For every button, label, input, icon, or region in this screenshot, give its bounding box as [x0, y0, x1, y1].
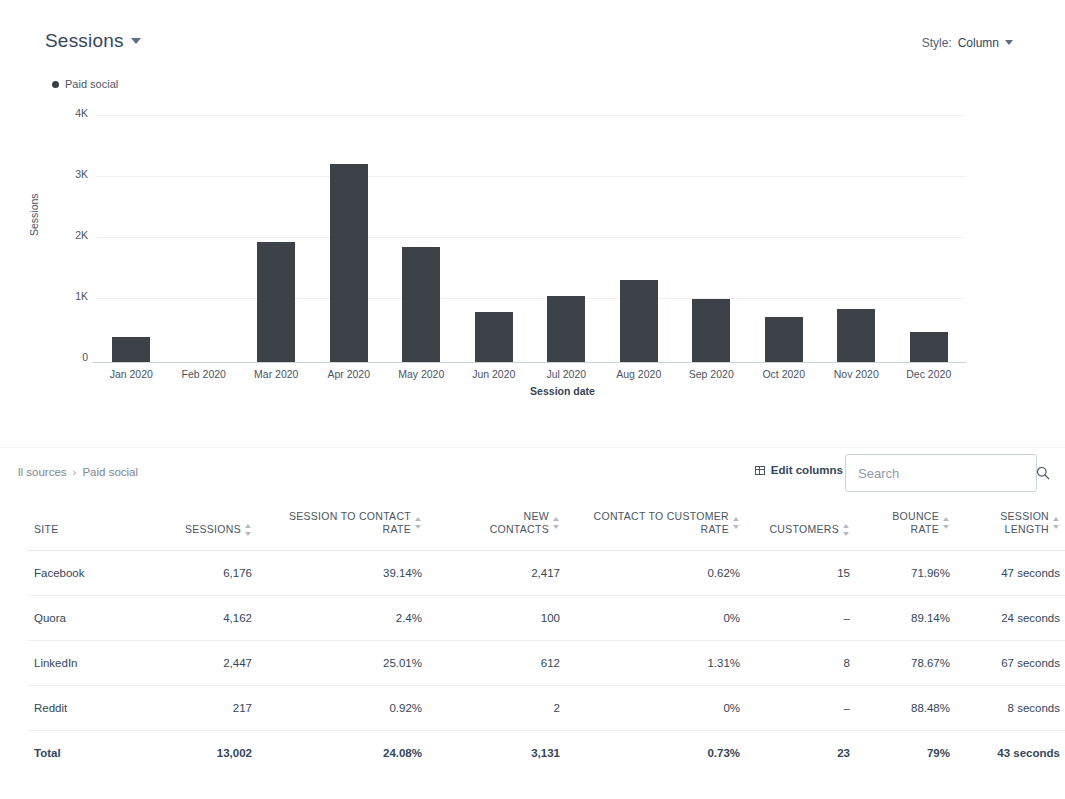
search-box[interactable] — [845, 454, 1037, 492]
cell-new-contacts: 612 — [428, 641, 566, 686]
column-header-new-contacts[interactable]: NEWCONTACTS — [428, 504, 566, 551]
column-header-session-length[interactable]: SESSIONLENGTH — [956, 504, 1065, 551]
style-dropdown[interactable]: Style:Column — [922, 36, 1013, 50]
column-header-sessions[interactable]: SESSIONS — [146, 504, 258, 551]
x-tick-label: Dec 2020 — [906, 368, 951, 380]
table-toolbar: ll sources›Paid social Edit columns — [0, 448, 1065, 504]
style-label: Style: — [922, 36, 952, 50]
style-value: Column — [958, 36, 999, 50]
cell-session-length: 24 seconds — [956, 596, 1065, 641]
chart-legend[interactable]: Paid social — [52, 78, 118, 90]
bar-slot — [893, 110, 966, 362]
y-tick-3: 3K — [75, 168, 88, 180]
x-axis-title: Session date — [0, 385, 1065, 397]
sort-toggle-icon[interactable] — [843, 523, 850, 537]
table-row[interactable]: LinkedIn2,44725.01%6121.31%878.67%67 sec… — [28, 641, 1065, 686]
column-header-customers[interactable]: CUSTOMERS — [746, 504, 856, 551]
cell-site[interactable]: Reddit — [28, 686, 146, 731]
sort-toggle-icon[interactable] — [415, 516, 422, 530]
x-tick-label: Jun 2020 — [472, 368, 515, 380]
y-tick-2: 2K — [75, 229, 88, 241]
cell-bounce-rate: 71.96% — [856, 551, 956, 596]
cell-site: Total — [28, 731, 146, 776]
column-header-label: SESSION TO CONTACTRATE — [289, 510, 422, 536]
chart-bar[interactable] — [620, 280, 658, 362]
sort-toggle-icon[interactable] — [733, 516, 740, 530]
chart-bar[interactable] — [475, 312, 513, 362]
cell-bounce-rate: 88.48% — [856, 686, 956, 731]
chart-bar[interactable] — [547, 296, 585, 362]
page-title: Sessions — [45, 30, 124, 51]
sort-toggle-icon[interactable] — [943, 516, 950, 530]
cell-bounce-rate: 78.67% — [856, 641, 956, 686]
bar-slot — [240, 110, 313, 362]
sort-toggle-icon[interactable] — [1053, 516, 1060, 530]
chart-bar[interactable] — [330, 164, 368, 362]
bar-slot — [168, 110, 241, 362]
cell-sessions: 4,162 — [146, 596, 258, 641]
column-header-label: SESSIONS — [185, 523, 252, 536]
cell-new-contacts: 2,417 — [428, 551, 566, 596]
chart-bar[interactable] — [257, 242, 295, 362]
sources-table-card: ll sources›Paid social Edit columns SITE… — [0, 447, 1065, 799]
edit-columns-button[interactable]: Edit columns — [755, 464, 843, 476]
chart-bar[interactable] — [112, 337, 150, 362]
table-row[interactable]: Facebook6,17639.14%2,4170.62%1571.96%47 … — [28, 551, 1065, 596]
breadcrumb[interactable]: ll sources›Paid social — [18, 466, 138, 478]
breadcrumb-separator-icon: › — [73, 466, 77, 478]
cell-site[interactable]: LinkedIn — [28, 641, 146, 686]
chart-bar[interactable] — [837, 309, 875, 362]
x-tick-label: Aug 2020 — [616, 368, 661, 380]
chart-title-dropdown[interactable]: Sessions — [45, 30, 141, 52]
column-header-session-to-contact-rate[interactable]: SESSION TO CONTACTRATE — [258, 504, 428, 551]
sources-table: SITESESSIONSSESSION TO CONTACTRATENEWCON… — [28, 504, 1065, 775]
cell-session-to-contact-rate: 39.14% — [258, 551, 428, 596]
sort-toggle-icon[interactable] — [553, 516, 560, 530]
table-row[interactable]: Quora4,1622.4%1000%–89.14%24 seconds — [28, 596, 1065, 641]
sort-toggle-icon[interactable] — [245, 523, 252, 537]
chevron-down-icon — [1005, 40, 1013, 45]
table-row[interactable]: Reddit2170.92%20%–88.48%8 seconds — [28, 686, 1065, 731]
column-header-site: SITE — [28, 504, 146, 551]
chart-bar[interactable] — [402, 247, 440, 362]
y-axis-title: Sessions — [28, 193, 40, 236]
bar-slot — [385, 110, 458, 362]
breadcrumb-root[interactable]: ll sources — [18, 466, 67, 478]
x-tick-label: Sep 2020 — [689, 368, 734, 380]
x-tick-label: Jul 2020 — [546, 368, 586, 380]
x-tick-label: May 2020 — [398, 368, 444, 380]
cell-sessions: 6,176 — [146, 551, 258, 596]
cell-customers: 8 — [746, 641, 856, 686]
table-header-row: SITESESSIONSSESSION TO CONTACTRATENEWCON… — [28, 504, 1065, 551]
y-tick-4: 4K — [75, 107, 88, 119]
chart-bar[interactable] — [910, 332, 948, 362]
column-header-contact-to-customer-rate[interactable]: CONTACT TO CUSTOMERRATE — [566, 504, 746, 551]
chart-bar[interactable] — [692, 299, 730, 362]
cell-contact-to-customer-rate: 0.62% — [566, 551, 746, 596]
cell-session-length: 8 seconds — [956, 686, 1065, 731]
cell-sessions: 13,002 — [146, 731, 258, 776]
bar-slot — [675, 110, 748, 362]
column-header-label: SESSIONLENGTH — [1000, 510, 1060, 536]
column-header-label: BOUNCERATE — [892, 510, 950, 536]
search-input[interactable] — [856, 465, 1036, 482]
chart-bar[interactable] — [765, 317, 803, 362]
bar-slot — [95, 110, 168, 362]
cell-customers: 15 — [746, 551, 856, 596]
cell-new-contacts: 2 — [428, 686, 566, 731]
cell-session-to-contact-rate: 2.4% — [258, 596, 428, 641]
cell-site[interactable]: Facebook — [28, 551, 146, 596]
x-tick-label: Oct 2020 — [762, 368, 805, 380]
table-body: Facebook6,17639.14%2,4170.62%1571.96%47 … — [28, 551, 1065, 776]
cell-site[interactable]: Quora — [28, 596, 146, 641]
chart-header: Sessions Style:Column — [0, 30, 1065, 62]
cell-contact-to-customer-rate: 0% — [566, 596, 746, 641]
x-tick-label: Apr 2020 — [327, 368, 370, 380]
edit-columns-label: Edit columns — [771, 464, 843, 476]
search-icon[interactable] — [1036, 466, 1050, 480]
x-tick-label: Feb 2020 — [182, 368, 226, 380]
table-total-row: Total13,00224.08%3,1310.73%2379%43 secon… — [28, 731, 1065, 776]
cell-session-length: 43 seconds — [956, 731, 1065, 776]
cell-session-length: 47 seconds — [956, 551, 1065, 596]
column-header-bounce-rate[interactable]: BOUNCERATE — [856, 504, 956, 551]
